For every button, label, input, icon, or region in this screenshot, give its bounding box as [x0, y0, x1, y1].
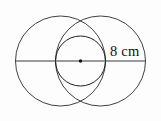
center-point-dot — [79, 59, 82, 62]
geometry-diagram-canvas: 8 cm — [0, 0, 161, 121]
measurement-label: 8 cm — [110, 43, 140, 59]
geometry-figure: 8 cm — [0, 0, 161, 121]
